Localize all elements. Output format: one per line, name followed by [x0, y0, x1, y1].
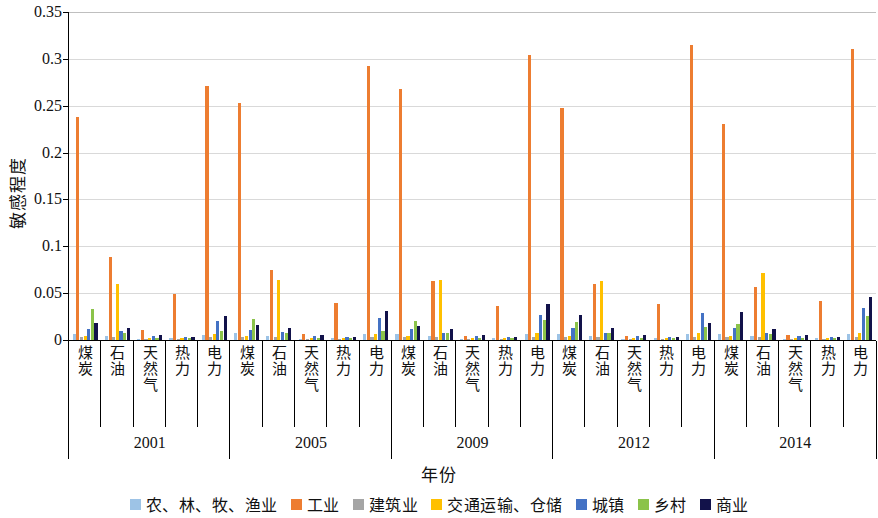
category-cell-2005-煤炭: 煤炭	[229, 341, 262, 427]
y-axis-tick-0.3: 0.3	[10, 50, 62, 68]
category-cell-2014-石油: 石油	[746, 341, 779, 427]
category-cell-2009-电力: 电力	[520, 341, 553, 427]
year-axis: 20012005200920122014	[68, 427, 875, 459]
category-label: 电力	[365, 345, 386, 377]
legend-swatch-icon	[431, 499, 442, 510]
category-cell-2005-天然气: 天然气	[294, 341, 327, 427]
category-label: 煤炭	[75, 345, 96, 377]
category-cell-2014-煤炭: 煤炭	[714, 341, 747, 427]
bar-2005-热力-商业	[353, 337, 356, 340]
year-cell-2014: 2014	[714, 427, 877, 459]
category-cell-2005-热力: 热力	[326, 341, 359, 427]
bar-2014-热力-工业	[819, 301, 822, 340]
bar-2001-石油-商业	[127, 328, 130, 340]
bar-2009-电力-工业	[528, 55, 531, 340]
legend-swatch-icon	[638, 499, 649, 510]
year-label: 2001	[134, 434, 166, 452]
bar-2009-煤炭-商业	[417, 326, 420, 340]
legend-item-交通运输、仓储[interactable]: 交通运输、仓储	[431, 492, 563, 516]
year-cell-2005: 2005	[229, 427, 391, 459]
category-cell-2012-电力: 电力	[681, 341, 714, 427]
legend-swatch-icon	[700, 499, 711, 510]
category-label: 热力	[656, 345, 677, 377]
category-label: 煤炭	[720, 345, 741, 377]
bar-2005-煤炭-商业	[256, 325, 259, 340]
y-axis-tick-0.05: 0.05	[10, 284, 62, 302]
legend-item-工业[interactable]: 工业	[291, 492, 340, 516]
bar-2014-石油-商业	[772, 329, 775, 340]
category-cell-2009-石油: 石油	[423, 341, 456, 427]
category-cell-2001-热力: 热力	[165, 341, 198, 427]
category-cell-2012-天然气: 天然气	[617, 341, 650, 427]
bar-2005-电力-工业	[367, 66, 370, 340]
category-label: 热力	[171, 345, 192, 377]
legend-item-城镇[interactable]: 城镇	[576, 492, 625, 516]
bar-2012-石油-商业	[611, 328, 614, 340]
legend: 农、林、牧、渔业工业建筑业交通运输、仓储城镇乡村商业	[0, 492, 878, 516]
legend-swatch-icon	[130, 499, 141, 510]
legend-item-建筑业[interactable]: 建筑业	[353, 492, 419, 516]
bar-2014-石油-工业	[754, 287, 757, 340]
category-cell-2001-石油: 石油	[100, 341, 133, 427]
y-axis-tick-0.2: 0.2	[10, 144, 62, 162]
year-label: 2009	[456, 434, 488, 452]
bar-2009-热力-工业	[496, 306, 499, 340]
bar-2001-热力-商业	[191, 337, 194, 340]
category-label: 天然气	[139, 345, 160, 393]
category-label: 电力	[204, 345, 225, 377]
category-label: 天然气	[462, 345, 483, 393]
category-cell-2001-电力: 电力	[197, 341, 230, 427]
y-axis-tick-0.1: 0.1	[10, 237, 62, 255]
year-cell-2001: 2001	[68, 427, 230, 459]
legend-item-农、林、牧、渔业[interactable]: 农、林、牧、渔业	[130, 492, 278, 516]
bar-2012-电力-商业	[708, 323, 711, 340]
category-label: 热力	[494, 345, 515, 377]
legend-swatch-icon	[576, 499, 587, 510]
category-cell-2014-电力: 电力	[843, 341, 877, 427]
legend-label: 城镇	[592, 492, 625, 516]
category-label: 煤炭	[559, 345, 580, 377]
category-label: 电力	[849, 345, 870, 377]
year-cell-2009: 2009	[391, 427, 553, 459]
category-cell-2009-煤炭: 煤炭	[391, 341, 424, 427]
bar-2012-石油-交通运输、仓储	[600, 281, 603, 340]
category-label: 石油	[268, 345, 289, 377]
legend-label: 商业	[716, 492, 749, 516]
category-cell-2012-石油: 石油	[584, 341, 617, 427]
bar-2014-煤炭-商业	[740, 312, 743, 340]
bar-2014-石油-交通运输、仓储	[761, 273, 764, 340]
legend-item-商业[interactable]: 商业	[700, 492, 749, 516]
bar-2014-煤炭-工业	[722, 124, 725, 340]
bar-2005-石油-商业	[288, 328, 291, 340]
bar-2012-热力-商业	[676, 337, 679, 340]
bar-2009-石油-工业	[431, 281, 434, 340]
y-axis-tick-0.35: 0.35	[10, 3, 62, 21]
bar-2001-电力-工业	[205, 86, 208, 340]
bar-2005-热力-工业	[334, 303, 337, 340]
chart-figure: 敏感程度 00.050.10.150.20.250.30.35 煤炭石油天然气热…	[0, 0, 878, 518]
y-axis-tick-0.25: 0.25	[10, 97, 62, 115]
legend-item-乡村[interactable]: 乡村	[638, 492, 687, 516]
bar-2001-天然气-商业	[159, 335, 162, 340]
category-label: 石油	[591, 345, 612, 377]
category-cell-2005-电力: 电力	[359, 341, 392, 427]
bar-2005-电力-商业	[385, 311, 388, 340]
category-label: 天然气	[623, 345, 644, 393]
category-cell-2005-石油: 石油	[262, 341, 295, 427]
category-cell-2009-天然气: 天然气	[455, 341, 488, 427]
year-label: 2012	[618, 434, 650, 452]
bar-2009-煤炭-工业	[399, 89, 402, 340]
year-cell-2012: 2012	[552, 427, 714, 459]
bar-2001-煤炭-商业	[94, 323, 97, 340]
category-cell-2012-热力: 热力	[649, 341, 682, 427]
year-label: 2005	[295, 434, 327, 452]
category-label: 石油	[753, 345, 774, 377]
legend-swatch-icon	[353, 499, 364, 510]
bar-2005-煤炭-工业	[238, 103, 241, 340]
legend-label: 交通运输、仓储	[447, 492, 563, 516]
bar-2012-天然气-商业	[643, 335, 646, 340]
category-cell-2009-热力: 热力	[488, 341, 521, 427]
category-label: 石油	[107, 345, 128, 377]
bar-2005-天然气-商业	[320, 335, 323, 340]
category-label: 热力	[333, 345, 354, 377]
